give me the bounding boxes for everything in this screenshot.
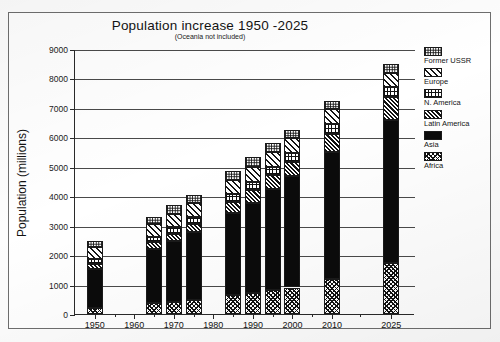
legend-swatch-icon [424, 110, 442, 119]
bar-1985[interactable] [225, 49, 241, 314]
bar-segment-asia[interactable] [166, 241, 182, 301]
bar-1990[interactable] [245, 49, 261, 314]
bar-segment-europe[interactable] [245, 167, 261, 182]
bar-segment-africa[interactable] [186, 300, 202, 314]
bar-segment-europe[interactable] [186, 203, 202, 217]
bar-segment-europe[interactable] [265, 152, 281, 167]
bar-segment-latin-america[interactable] [284, 162, 300, 177]
bar-segment-former-ussr[interactable] [324, 101, 340, 109]
bar-segment-asia[interactable] [186, 232, 202, 300]
bar-1970[interactable] [166, 49, 182, 314]
legend-item-n-america[interactable]: N. America [424, 89, 494, 108]
bar-2000[interactable] [284, 49, 300, 314]
bar-segment-n-america[interactable] [186, 217, 202, 224]
x-axis-minor-tick [312, 314, 313, 317]
bar-segment-asia[interactable] [225, 213, 241, 295]
bar-segment-europe[interactable] [87, 247, 103, 258]
legend-item-label: Europe [424, 77, 494, 87]
bar-segment-former-ussr[interactable] [87, 241, 103, 247]
x-axis-minor-tick [360, 314, 361, 317]
bar-segment-n-america[interactable] [284, 153, 300, 162]
y-axis-title-label: Population (millions) [15, 128, 29, 236]
y-axis-tick [70, 286, 75, 287]
y-axis-tick-label: 7000 [49, 104, 68, 114]
x-axis-tick-label: 1990 [243, 320, 263, 330]
bar-1975[interactable] [186, 49, 202, 314]
bar-segment-latin-america[interactable] [383, 97, 399, 119]
bar-segment-latin-america[interactable] [87, 264, 103, 269]
bar-segment-former-ussr[interactable] [383, 64, 399, 72]
bar-segment-former-ussr[interactable] [225, 171, 241, 180]
bar-segment-former-ussr[interactable] [284, 130, 300, 138]
x-axis-tick [391, 314, 392, 319]
bar-segment-asia[interactable] [265, 189, 281, 290]
bar-segment-n-america[interactable] [383, 87, 399, 98]
bar-segment-asia[interactable] [383, 120, 399, 264]
y-axis-tick [70, 138, 75, 139]
bar-segment-n-america[interactable] [87, 259, 103, 264]
x-axis-tick [95, 314, 96, 319]
y-axis-tick-label: 1000 [49, 281, 68, 291]
y-axis-tick-label: 4000 [49, 192, 68, 202]
y-axis-title: Population (millions) [14, 50, 30, 315]
scanned-page: Population increase 1950 -2025 (Oceania … [0, 0, 500, 342]
bar-segment-europe[interactable] [166, 214, 182, 228]
bar-2010[interactable] [324, 49, 340, 314]
legend-item-latin-america[interactable]: Latin America [424, 110, 494, 129]
legend-item-asia[interactable]: Asia [424, 131, 494, 150]
legend-item-former-ussr[interactable]: Former USSR [424, 47, 494, 66]
y-axis-tick [70, 227, 75, 228]
bar-segment-latin-america[interactable] [324, 134, 340, 152]
bar-segment-latin-america[interactable] [265, 175, 281, 189]
x-axis-tick-label: 2010 [322, 320, 342, 330]
chart-title: Population increase 1950 -2025 [60, 18, 360, 33]
bar-segment-latin-america[interactable] [166, 234, 182, 241]
bar-segment-former-ussr[interactable] [245, 157, 261, 167]
bar-segment-europe[interactable] [225, 180, 241, 194]
bar-segment-asia[interactable] [245, 203, 261, 293]
legend-item-africa[interactable]: Africa [424, 152, 494, 171]
bar-segment-latin-america[interactable] [245, 190, 261, 202]
bar-segment-asia[interactable] [324, 152, 340, 279]
bar-segment-europe[interactable] [284, 138, 300, 153]
bar-segment-africa[interactable] [146, 303, 162, 314]
bar-1965[interactable] [146, 49, 162, 314]
bar-segment-former-ussr[interactable] [166, 205, 182, 214]
bar-segment-asia[interactable] [284, 176, 300, 287]
bar-segment-former-ussr[interactable] [186, 195, 202, 203]
x-axis-tick-label: 1970 [164, 320, 184, 330]
bar-segment-africa[interactable] [383, 263, 399, 314]
bar-segment-n-america[interactable] [146, 237, 162, 243]
bar-segment-n-america[interactable] [245, 182, 261, 190]
bar-segment-africa[interactable] [265, 290, 281, 314]
bar-segment-n-america[interactable] [166, 227, 182, 233]
bar-segment-africa[interactable] [284, 288, 300, 315]
bar-segment-asia[interactable] [87, 269, 103, 308]
bar-segment-latin-america[interactable] [186, 224, 202, 232]
legend-item-europe[interactable]: Europe [424, 68, 494, 87]
bar-segment-latin-america[interactable] [225, 202, 241, 213]
bar-segment-n-america[interactable] [225, 194, 241, 202]
bar-segment-africa[interactable] [245, 293, 261, 314]
bar-segment-former-ussr[interactable] [146, 217, 162, 224]
x-axis-minor-tick [273, 314, 274, 317]
bar-segment-europe[interactable] [324, 109, 340, 124]
bar-1950[interactable] [87, 49, 103, 314]
bar-segment-africa[interactable] [166, 302, 182, 314]
bar-segment-asia[interactable] [146, 249, 162, 303]
bar-2025[interactable] [383, 49, 399, 314]
y-axis-tick [70, 256, 75, 257]
bar-segment-africa[interactable] [225, 295, 241, 314]
bar-segment-africa[interactable] [87, 308, 103, 314]
bar-1995[interactable] [265, 49, 281, 314]
y-axis-tick-label: 0 [63, 310, 68, 320]
bar-segment-former-ussr[interactable] [265, 143, 281, 152]
bar-segment-europe[interactable] [383, 73, 399, 87]
bar-segment-latin-america[interactable] [146, 242, 162, 248]
bar-segment-n-america[interactable] [265, 167, 281, 176]
bar-segment-europe[interactable] [146, 224, 162, 237]
bar-segment-n-america[interactable] [324, 124, 340, 134]
x-axis-tick-label: 1960 [124, 320, 144, 330]
chart-subtitle: (Oceania not included) [60, 33, 360, 40]
bar-segment-africa[interactable] [324, 279, 340, 314]
